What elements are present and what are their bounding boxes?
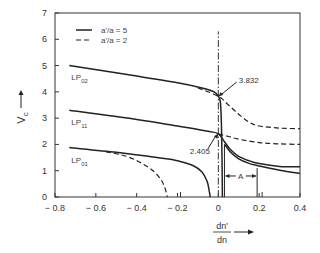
y-axis-title: Vc <box>15 90 30 124</box>
y-tick-label: 3 <box>42 113 47 123</box>
series-curve <box>106 152 167 197</box>
y-tick-label: 4 <box>42 87 47 97</box>
series-curve <box>198 88 300 129</box>
x-tick-label: 0.2 <box>253 203 266 213</box>
annotation-leader <box>220 82 236 95</box>
series-curve <box>218 134 300 145</box>
x-tick-label: 0.4 <box>294 203 307 213</box>
value-annotation: 3.832 <box>239 76 260 85</box>
plot-frame <box>55 13 300 197</box>
y-tick-label: 1 <box>42 166 47 176</box>
x-axis-title-numerator: dn' <box>216 221 228 231</box>
data-series <box>69 66 300 197</box>
dimension-label: A <box>238 172 244 181</box>
x-tick-label: 0 <box>216 203 221 213</box>
mode-labels: LP02LP11LP01 <box>71 73 88 167</box>
x-tick-label: − 0.2 <box>167 203 187 213</box>
arrow-up-icon <box>19 90 24 95</box>
legend-label: a'/a = 5 <box>101 26 128 35</box>
plot-area-border <box>55 13 300 197</box>
arrow-icon <box>218 92 223 96</box>
chart: 01234567− 0.8− 0.6− 0.4− 0.200.20.4 LP02… <box>0 0 320 253</box>
legend: a'/a = 5a'/a = 2 <box>76 26 128 45</box>
arrow-left-icon <box>225 174 229 178</box>
series-curve <box>69 110 300 167</box>
arrow-right-icon <box>248 230 254 235</box>
y-tick-label: 2 <box>42 139 47 149</box>
axis-ticks: 01234567− 0.8− 0.6− 0.4− 0.200.20.4 <box>42 8 306 213</box>
y-tick-label: 0 <box>42 192 47 202</box>
mode-label: LP02 <box>71 73 88 84</box>
mode-label: LP11 <box>71 118 88 129</box>
value-annotation: 2.405 <box>190 147 211 156</box>
x-tick-label: − 0.8 <box>45 203 65 213</box>
series-curve <box>225 144 301 173</box>
legend-label: a'/a = 2 <box>101 36 128 45</box>
x-tick-label: − 0.6 <box>86 203 106 213</box>
series-curve <box>69 66 222 197</box>
mode-label: LP01 <box>71 156 88 167</box>
y-tick-label: 7 <box>42 8 47 18</box>
y-tick-label: 6 <box>42 34 47 44</box>
y-tick-label: 5 <box>42 61 47 71</box>
x-axis-title-denominator: dn <box>217 235 227 245</box>
arrow-right-icon <box>252 174 256 178</box>
svg-text:Vc: Vc <box>15 112 30 123</box>
x-tick-label: − 0.4 <box>127 203 147 213</box>
